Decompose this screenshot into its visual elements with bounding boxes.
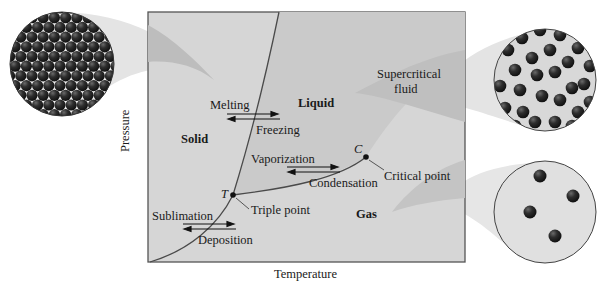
liquid-region-label: Liquid — [298, 97, 334, 110]
triple-point-dot — [230, 192, 236, 198]
gas-region-label: Gas — [356, 208, 377, 221]
triple-point-symbol: T — [221, 188, 228, 201]
supercritical-label-line2: fluid — [394, 83, 418, 96]
diagram-canvas — [0, 0, 609, 287]
phase-diagram-figure: Melting Freezing Liquid Solid Vaporizati… — [0, 0, 609, 287]
y-axis-label: Pressure — [118, 110, 133, 152]
deposition-label: Deposition — [198, 234, 253, 247]
freezing-label: Freezing — [256, 124, 300, 137]
solid-region-label: Solid — [181, 133, 208, 146]
supercritical-label-line1: Supercritical — [377, 68, 441, 81]
vaporization-label: Vaporization — [251, 153, 315, 166]
condensation-label: Condensation — [309, 177, 378, 190]
critical-point-symbol: C — [354, 143, 362, 156]
sublimation-label: Sublimation — [152, 210, 213, 223]
melting-label: Melting — [210, 99, 250, 112]
triple-point-label: Triple point — [251, 204, 310, 217]
critical-point-dot — [363, 154, 369, 160]
x-axis-label: Temperature — [274, 268, 337, 281]
gas-inset-circle — [494, 161, 596, 263]
critical-point-label: Critical point — [384, 170, 450, 183]
